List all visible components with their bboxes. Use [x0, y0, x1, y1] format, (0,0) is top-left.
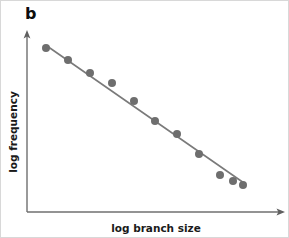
figure-panel-b: b log frequency log branch size [0, 0, 289, 238]
data-point [151, 117, 159, 125]
data-point [195, 150, 203, 158]
data-point [216, 171, 224, 179]
plot-canvas [1, 1, 289, 238]
data-points-group [42, 44, 247, 189]
x-axis-label: log branch size [61, 221, 251, 235]
data-point [239, 181, 247, 189]
data-point [64, 56, 72, 64]
data-point [42, 44, 50, 52]
y-axis-label: log frequency [5, 67, 21, 197]
data-point [130, 97, 138, 105]
trend-line [47, 46, 244, 183]
data-point [229, 177, 237, 185]
data-point [86, 69, 94, 77]
trend-line-group [47, 46, 244, 183]
data-point [173, 130, 181, 138]
data-point [108, 79, 116, 87]
